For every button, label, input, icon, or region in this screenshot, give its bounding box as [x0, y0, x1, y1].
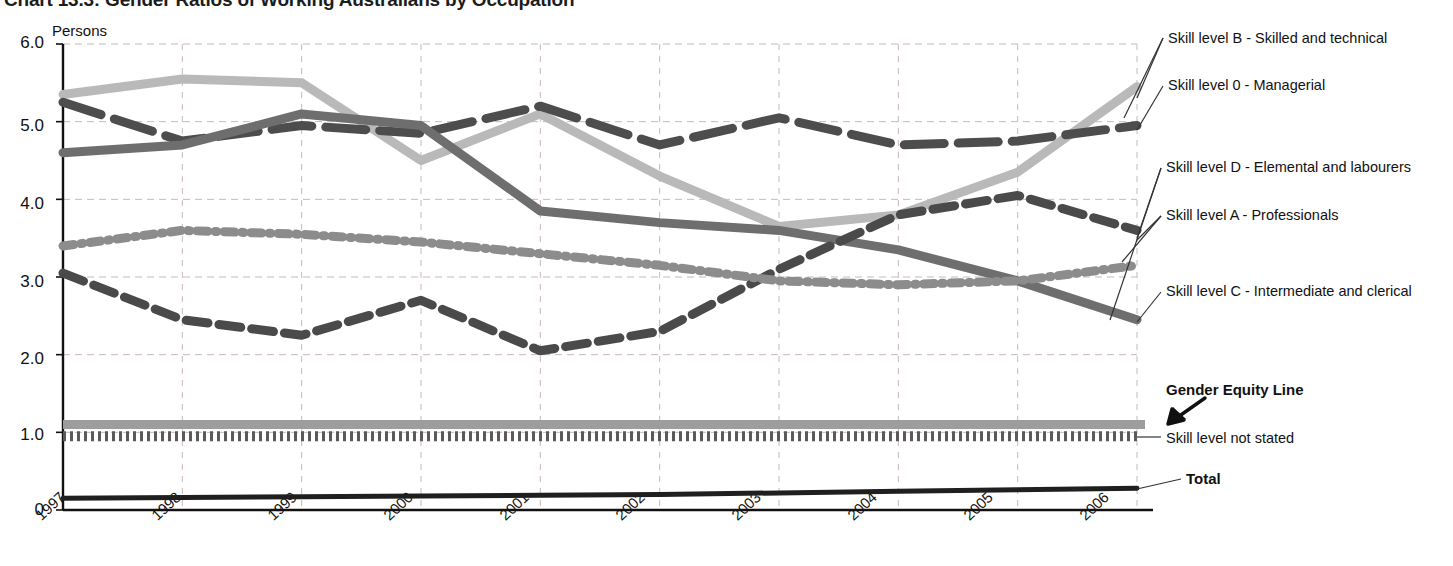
- callout-label-skill-c: Skill level C - Intermediate and clerica…: [1166, 283, 1412, 299]
- callout-label-skill-d: Skill level D - Elemental and labourers: [1166, 159, 1411, 175]
- chart-container: Chart 13.3: Gender Ratios of Working Aus…: [0, 0, 1453, 566]
- callout-label-not-stated: Skill level not stated: [1166, 430, 1294, 446]
- callout-label-skill-b: Skill level B - Skilled and technical: [1168, 30, 1387, 46]
- callout-label-total: Total: [1186, 470, 1221, 487]
- callout-label-skill-a: Skill level A - Professionals: [1166, 207, 1338, 223]
- callout-label-skill-0: Skill level 0 - Managerial: [1168, 77, 1325, 93]
- callout-label-gender-equity-line: Gender Equity Line: [1166, 381, 1304, 398]
